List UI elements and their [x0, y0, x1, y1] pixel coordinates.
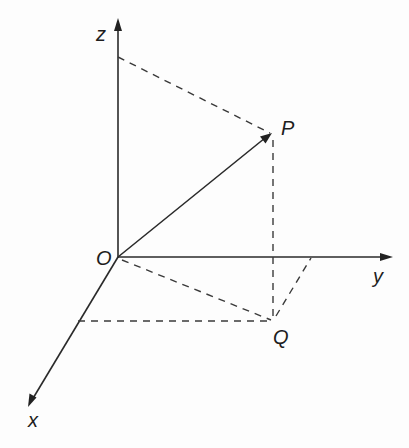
point-p-label: P [281, 118, 294, 138]
x-axis-label: x [28, 410, 38, 430]
point-q-label: Q [273, 327, 289, 347]
z-axis-arrow-icon [114, 18, 122, 31]
y-axis-arrow-icon [380, 253, 393, 261]
z-axis [114, 18, 122, 258]
y-axis [118, 253, 393, 261]
origin-label: O [96, 248, 112, 268]
diagram-graphics [0, 0, 409, 448]
vector-op-arrow-icon [260, 133, 272, 144]
z-axis-label: z [96, 24, 106, 44]
x-axis [28, 257, 118, 407]
dashed-o-to-q [122, 260, 271, 320]
dashed-q-to-y [276, 258, 311, 316]
coordinate-diagram: z P O y Q x [0, 0, 409, 448]
y-axis-label: y [373, 266, 383, 286]
vector-op [118, 133, 272, 257]
dashed-z-to-p [118, 57, 270, 133]
